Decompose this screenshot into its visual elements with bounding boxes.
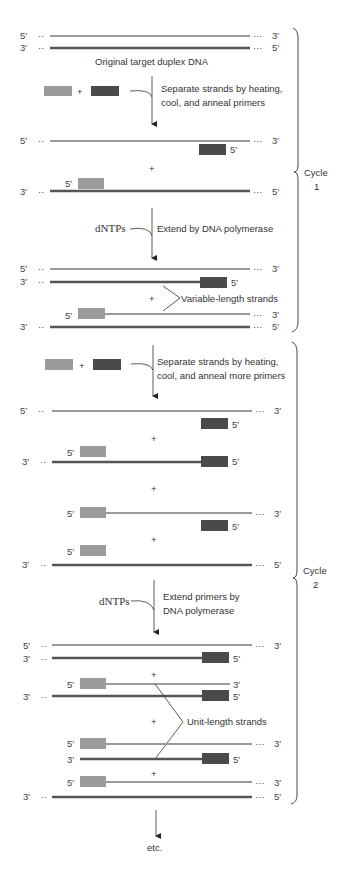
svg-text:···: ··· xyxy=(253,42,263,53)
primer-light xyxy=(44,86,72,96)
svg-text:+: + xyxy=(77,86,83,97)
svg-text:5′: 5′ xyxy=(65,178,72,189)
svg-text:··: ·· xyxy=(38,405,44,416)
svg-text:5′: 5′ xyxy=(67,777,74,788)
svg-text:5′: 5′ xyxy=(67,508,74,519)
svg-text:···: ··· xyxy=(255,738,265,749)
svg-text:Separate strands by heating,: Separate strands by heating, xyxy=(161,83,282,94)
svg-text:···: ··· xyxy=(253,309,263,320)
svg-text:5′: 5′ xyxy=(67,679,74,690)
annealed-cycle1: 5′ ·· ··· 3′ 5′ + 5′ 3′ ·· ··· 5′ xyxy=(20,135,279,197)
svg-text:5′: 5′ xyxy=(272,186,279,197)
cycle2-brace: Cycle 2 xyxy=(291,342,327,804)
svg-text:··: ·· xyxy=(41,691,47,702)
svg-text:···: ··· xyxy=(255,777,265,788)
svg-text:Separate strands by heating,: Separate strands by heating, xyxy=(157,356,278,367)
svg-text:3′: 3′ xyxy=(22,559,29,570)
svg-text:···: ··· xyxy=(255,405,265,416)
svg-text:··: ·· xyxy=(38,263,44,274)
svg-text:··: ·· xyxy=(38,42,44,53)
svg-text:···: ··· xyxy=(255,640,265,651)
svg-text:··: ·· xyxy=(38,30,44,41)
svg-text:···: ··· xyxy=(255,508,265,519)
svg-text:···: ··· xyxy=(253,30,263,41)
pcr-diagram: 5′ ·· ··· 3′ 3′ ·· ··· 5′ Original targe… xyxy=(0,0,349,872)
svg-text:5′: 5′ xyxy=(274,559,281,570)
svg-text:cool, and anneal more primers: cool, and anneal more primers xyxy=(157,370,286,381)
svg-text:3′: 3′ xyxy=(67,754,74,765)
svg-text:3′: 3′ xyxy=(23,791,30,802)
svg-text:5′: 5′ xyxy=(233,653,240,664)
svg-text:···: ··· xyxy=(253,186,263,197)
svg-text:Unit-length strands: Unit-length strands xyxy=(187,716,267,727)
svg-text:3′: 3′ xyxy=(274,738,281,749)
svg-text:··: ·· xyxy=(38,135,44,146)
svg-text:Extend primers by: Extend primers by xyxy=(163,591,240,602)
primer-dark xyxy=(91,86,119,96)
svg-text:5′: 5′ xyxy=(20,135,27,146)
svg-text:5′: 5′ xyxy=(232,521,239,532)
svg-text:··: ·· xyxy=(41,640,47,651)
svg-text:3′: 3′ xyxy=(274,508,281,519)
svg-text:5′: 5′ xyxy=(20,405,27,416)
svg-text:3′: 3′ xyxy=(20,42,27,53)
svg-text:5′: 5′ xyxy=(65,310,72,321)
step-separate-anneal: + Separate strands by heating, cool, and… xyxy=(44,76,282,124)
svg-text:+: + xyxy=(151,483,157,494)
svg-text:5′: 5′ xyxy=(67,447,74,458)
svg-text:DNA polymerase: DNA polymerase xyxy=(163,605,234,616)
svg-text:3′: 3′ xyxy=(272,135,279,146)
svg-text:etc.: etc. xyxy=(147,842,162,853)
svg-text:+: + xyxy=(151,433,157,444)
svg-text:··: ·· xyxy=(40,456,46,467)
svg-text:+: + xyxy=(79,360,85,371)
svg-text:···: ··· xyxy=(255,791,265,802)
svg-text:··: ·· xyxy=(38,321,44,332)
svg-text:+: + xyxy=(151,534,157,545)
svg-text:5′: 5′ xyxy=(67,546,74,557)
step-extend-primers: dNTPs Extend primers by DNA polymerase xyxy=(99,580,240,632)
svg-text:3′: 3′ xyxy=(20,321,27,332)
svg-text:5′: 5′ xyxy=(233,754,240,765)
svg-text:··: ·· xyxy=(41,653,47,664)
svg-text:···: ··· xyxy=(253,321,263,332)
svg-text:+: + xyxy=(151,716,157,727)
svg-text:5′: 5′ xyxy=(67,738,74,749)
step-separate-anneal-more: + Separate strands by heating, cool, and… xyxy=(45,345,286,396)
svg-text:3′: 3′ xyxy=(272,309,279,320)
svg-text:5′: 5′ xyxy=(232,456,239,467)
cycle1-brace: Cycle 1 xyxy=(292,28,328,332)
svg-text:+: + xyxy=(149,163,155,174)
variable-length-products: 5′ ·· ··· 3′ 3′ ·· 5′ + Variable-length … xyxy=(20,263,279,332)
svg-text:dNTPs: dNTPs xyxy=(99,595,130,607)
svg-text:5′: 5′ xyxy=(230,144,237,155)
svg-text:3′: 3′ xyxy=(272,30,279,41)
unit-length-products: 5′ ·· ··· 3′ 3′ ·· 5′ + 5′ 3′ 3′ ·· 5′ +… xyxy=(23,640,281,802)
svg-text:5′: 5′ xyxy=(23,640,30,651)
svg-text:3′: 3′ xyxy=(22,456,29,467)
svg-text:··: ·· xyxy=(41,791,47,802)
svg-text:Extend by DNA polymerase: Extend by DNA polymerase xyxy=(157,223,273,234)
svg-text:+: + xyxy=(149,293,155,304)
svg-text:3′: 3′ xyxy=(274,640,281,651)
svg-text:3′: 3′ xyxy=(233,679,240,690)
svg-text:5′: 5′ xyxy=(272,42,279,53)
original-duplex: 5′ ·· ··· 3′ 3′ ·· ··· 5′ Original targe… xyxy=(20,30,279,67)
svg-text:5′: 5′ xyxy=(20,263,27,274)
etc-arrow: etc. xyxy=(147,810,162,853)
svg-text:··: ·· xyxy=(38,186,44,197)
svg-text:+: + xyxy=(151,669,157,680)
svg-text:3′: 3′ xyxy=(23,691,30,702)
svg-text:5′: 5′ xyxy=(233,691,240,702)
svg-text:5′: 5′ xyxy=(274,791,281,802)
svg-text:5′: 5′ xyxy=(272,321,279,332)
step-extend: dNTPs Extend by DNA polymerase xyxy=(95,208,273,258)
primer-dark xyxy=(199,144,226,155)
svg-text:1: 1 xyxy=(314,181,319,192)
svg-text:3′: 3′ xyxy=(23,653,30,664)
svg-text:5′: 5′ xyxy=(231,277,238,288)
svg-text:Cycle: Cycle xyxy=(303,565,327,576)
svg-text:···: ··· xyxy=(253,263,263,274)
label-5prime: 5′ xyxy=(20,30,27,41)
svg-text:3′: 3′ xyxy=(272,263,279,274)
